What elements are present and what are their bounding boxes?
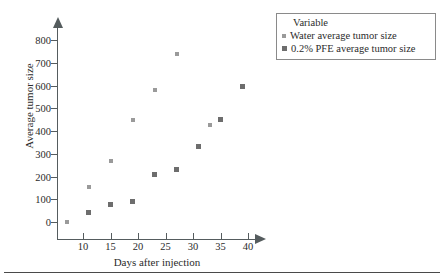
data-point — [208, 123, 212, 127]
legend: Variable Water average tumor size0.2% PF… — [276, 13, 436, 60]
legend-entry-label: Water average tumor size — [290, 29, 397, 42]
bottom-divider — [4, 272, 440, 273]
x-tick-label: 35 — [206, 241, 236, 252]
legend-entry[interactable]: 0.2% PFE average tumor size — [281, 42, 431, 55]
data-point — [130, 199, 135, 204]
y-tick-mark — [51, 177, 57, 178]
x-axis-title: Days after injection — [57, 256, 257, 268]
legend-entry[interactable]: Water average tumor size — [281, 29, 431, 42]
data-point — [175, 52, 179, 56]
x-tick-mark — [83, 233, 84, 239]
y-tick: 100 — [15, 199, 51, 200]
y-tick-label: 100 — [21, 194, 51, 205]
y-tick-mark — [51, 154, 57, 155]
legend-entry-label: 0.2% PFE average tumor size — [291, 42, 416, 55]
pfe-marker-icon — [282, 46, 287, 51]
y-tick-mark — [51, 86, 57, 87]
y-tick-mark — [51, 199, 57, 200]
x-tick-label: 40 — [233, 241, 263, 252]
legend-entries: Water average tumor size0.2% PFE average… — [281, 29, 431, 55]
data-point — [153, 88, 157, 92]
x-tick-label: 15 — [96, 241, 126, 252]
x-tick-mark — [111, 233, 112, 239]
data-point — [196, 144, 201, 149]
x-tick-label: 20 — [123, 241, 153, 252]
scatter-plot-figure: 0100200300400500600700800 10152025303540… — [0, 0, 444, 280]
x-tick-label: 10 — [68, 241, 98, 252]
data-point — [218, 117, 223, 122]
data-point — [174, 167, 179, 172]
legend-title: Variable — [281, 17, 431, 28]
y-tick-mark — [51, 222, 57, 223]
data-point — [152, 172, 157, 177]
y-tick-mark — [51, 108, 57, 109]
x-tick-label: 25 — [151, 241, 181, 252]
x-tick-mark — [193, 233, 194, 239]
y-tick-mark — [51, 40, 57, 41]
water-marker-icon — [282, 34, 286, 38]
y-tick-mark — [51, 131, 57, 132]
data-point — [109, 159, 113, 163]
x-tick-label: 30 — [178, 241, 208, 252]
data-point — [131, 118, 135, 122]
data-point — [240, 84, 245, 89]
y-tick-label: 0 — [21, 217, 51, 228]
x-tick-mark — [166, 233, 167, 239]
data-point — [87, 185, 91, 189]
y-axis-arrow-icon — [53, 17, 63, 28]
data-point — [108, 202, 113, 207]
y-tick: 0 — [15, 222, 51, 223]
y-axis-line — [57, 26, 58, 240]
x-tick-mark — [221, 233, 222, 239]
data-point — [86, 210, 91, 215]
x-tick-mark — [138, 233, 139, 239]
x-tick-mark — [248, 233, 249, 239]
y-tick-mark — [51, 63, 57, 64]
y-axis-title: Average tumor size — [23, 31, 35, 181]
data-point — [65, 220, 69, 224]
